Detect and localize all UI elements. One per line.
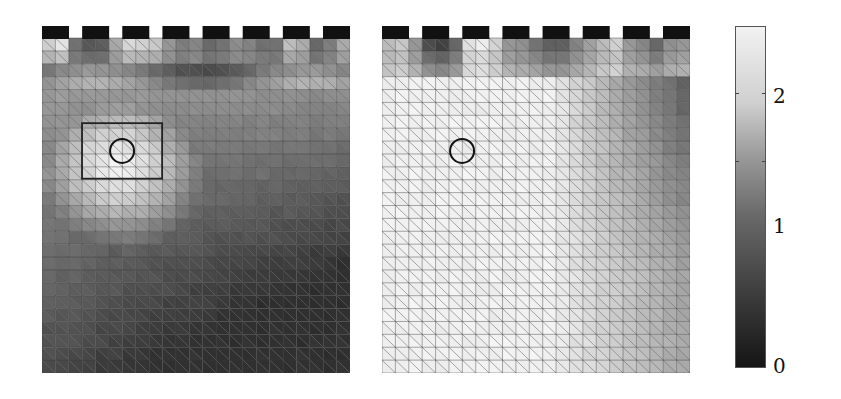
electrode bbox=[82, 26, 109, 39]
left-mesh-heatmap bbox=[42, 26, 350, 373]
electrode bbox=[243, 26, 270, 39]
left-reconstruction-panel bbox=[42, 26, 350, 373]
electrode bbox=[462, 26, 489, 39]
colorbar-tick-mark-1 bbox=[735, 161, 739, 162]
colorbar-tick-mark-1 bbox=[762, 161, 766, 162]
colorbar-tick-label-1: 1 bbox=[773, 216, 786, 236]
electrode bbox=[162, 26, 189, 39]
electrode bbox=[122, 26, 149, 39]
electrode bbox=[502, 26, 529, 39]
colorbar-tick-label-2: 2 bbox=[773, 86, 786, 106]
colorbar bbox=[735, 26, 766, 368]
electrode bbox=[283, 26, 310, 39]
right-reconstruction-panel bbox=[382, 26, 690, 373]
electrode bbox=[623, 26, 650, 39]
colorbar-tick-mark-2 bbox=[762, 93, 766, 94]
electrode bbox=[42, 26, 69, 39]
electrode bbox=[663, 26, 690, 39]
colorbar-tick-label-0: 0 bbox=[773, 356, 786, 376]
electrode bbox=[543, 26, 570, 39]
colorbar-tick-mark-2 bbox=[735, 93, 739, 94]
electrode bbox=[203, 26, 230, 39]
electrode bbox=[323, 26, 350, 39]
electrode bbox=[422, 26, 449, 39]
electrode bbox=[382, 26, 409, 39]
right-mesh-heatmap bbox=[382, 26, 690, 373]
electrode bbox=[583, 26, 610, 39]
